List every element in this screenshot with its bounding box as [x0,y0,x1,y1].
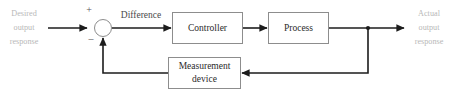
minus-sign-label: – [88,33,95,44]
block-measurement-device-label-line2: device [192,74,217,84]
output-label-line2: output [419,23,441,32]
summing-junction [95,20,112,37]
block-measurement-device-label-line1: Measurement [179,61,231,71]
input-label-line3: response [10,37,39,46]
output-label-line1: Actual [418,9,441,18]
output-label-line3: response [415,37,444,46]
input-label-line2: output [14,23,36,32]
diagram-canvas: Desired output response Actual output re… [0,0,456,95]
control-system-block-diagram: Desired output response Actual output re… [0,0,456,95]
wire-measurement-to-sum [103,38,168,73]
block-controller-label: Controller [188,23,228,33]
input-label-line1: Desired [11,9,36,18]
plus-sign-label: + [86,4,92,15]
difference-label: Difference [121,10,161,20]
block-process-label: Process [284,23,313,33]
